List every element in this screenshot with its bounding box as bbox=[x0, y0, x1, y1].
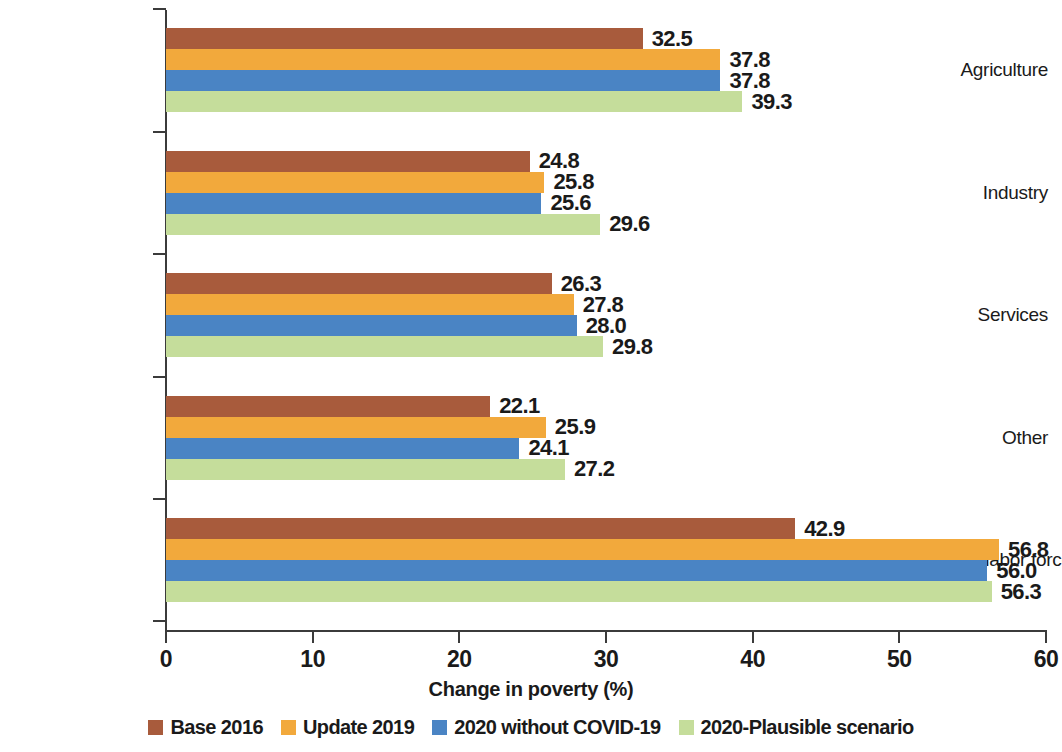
legend-item[interactable]: Update 2019 bbox=[281, 716, 414, 739]
bar bbox=[166, 438, 519, 459]
category-label: Industry bbox=[902, 182, 1062, 204]
bar-value-label: 29.8 bbox=[612, 334, 652, 360]
x-axis-tick bbox=[605, 630, 607, 643]
bar-value-label: 29.6 bbox=[609, 211, 649, 237]
bar bbox=[166, 336, 603, 357]
category-label: Services bbox=[902, 304, 1062, 326]
y-axis-tick bbox=[153, 620, 166, 622]
x-axis-tick-label: 60 bbox=[1034, 646, 1059, 673]
x-axis-tick-label: 10 bbox=[300, 646, 325, 673]
bar bbox=[166, 70, 720, 91]
legend-label: 2020 without COVID-19 bbox=[454, 716, 660, 739]
bar bbox=[166, 581, 992, 602]
bar bbox=[166, 172, 544, 193]
y-axis-tick bbox=[153, 376, 166, 378]
bar bbox=[166, 518, 795, 539]
bar bbox=[166, 28, 643, 49]
bar-value-label: 22.1 bbox=[499, 393, 539, 419]
y-axis-tick bbox=[153, 8, 166, 10]
x-axis-tick bbox=[165, 630, 167, 643]
bar bbox=[166, 214, 600, 235]
x-axis-tick bbox=[752, 630, 754, 643]
bar-value-label: 39.3 bbox=[751, 89, 791, 115]
bar-value-label: 24.1 bbox=[528, 435, 568, 461]
bar bbox=[166, 91, 742, 112]
bar bbox=[166, 273, 552, 294]
bar bbox=[166, 417, 546, 438]
legend-label: 2020-Plausible scenario bbox=[701, 716, 914, 739]
x-axis-tick-label: 0 bbox=[160, 646, 172, 673]
x-axis-title: Change in poverty (%) bbox=[0, 678, 1062, 701]
x-axis-tick bbox=[312, 630, 314, 643]
bar bbox=[166, 49, 720, 70]
y-axis-tick bbox=[153, 498, 166, 500]
plot-area: 0102030405060 AgricultureIndustryService… bbox=[0, 0, 1062, 640]
bar bbox=[166, 151, 530, 172]
bar bbox=[166, 193, 541, 214]
bar-value-label: 42.9 bbox=[804, 516, 844, 542]
bar-chart: 0102030405060 AgricultureIndustryService… bbox=[0, 0, 1062, 752]
bar bbox=[166, 315, 577, 336]
y-axis-tick bbox=[153, 131, 166, 133]
x-axis-tick bbox=[898, 630, 900, 643]
bar bbox=[166, 396, 490, 417]
chart-legend: Base 2016Update 20192020 without COVID-1… bbox=[0, 716, 1062, 739]
x-axis-tick bbox=[1045, 630, 1047, 643]
category-label: Other bbox=[902, 427, 1062, 449]
x-axis-tick-label: 30 bbox=[594, 646, 619, 673]
legend-swatch-icon bbox=[148, 720, 163, 735]
bar-value-label: 56.3 bbox=[1001, 579, 1041, 605]
legend-label: Base 2016 bbox=[170, 716, 262, 739]
x-axis-tick bbox=[458, 630, 460, 643]
legend-swatch-icon bbox=[679, 720, 694, 735]
bar-value-label: 27.2 bbox=[574, 456, 614, 482]
bar bbox=[166, 560, 987, 581]
legend-item[interactable]: 2020 without COVID-19 bbox=[432, 716, 660, 739]
bar bbox=[166, 459, 565, 480]
x-axis-tick-label: 50 bbox=[887, 646, 912, 673]
x-axis-tick-label: 20 bbox=[447, 646, 472, 673]
bar bbox=[166, 539, 999, 560]
legend-swatch-icon bbox=[281, 720, 296, 735]
x-axis-tick-label: 40 bbox=[740, 646, 765, 673]
legend-swatch-icon bbox=[432, 720, 447, 735]
legend-item[interactable]: 2020-Plausible scenario bbox=[679, 716, 914, 739]
bar bbox=[166, 294, 574, 315]
y-axis-tick bbox=[153, 253, 166, 255]
legend-label: Update 2019 bbox=[303, 716, 414, 739]
legend-item[interactable]: Base 2016 bbox=[148, 716, 262, 739]
bar-value-label: 25.6 bbox=[550, 190, 590, 216]
bar-value-label: 32.5 bbox=[652, 26, 692, 52]
category-label: Agriculture bbox=[902, 59, 1062, 81]
